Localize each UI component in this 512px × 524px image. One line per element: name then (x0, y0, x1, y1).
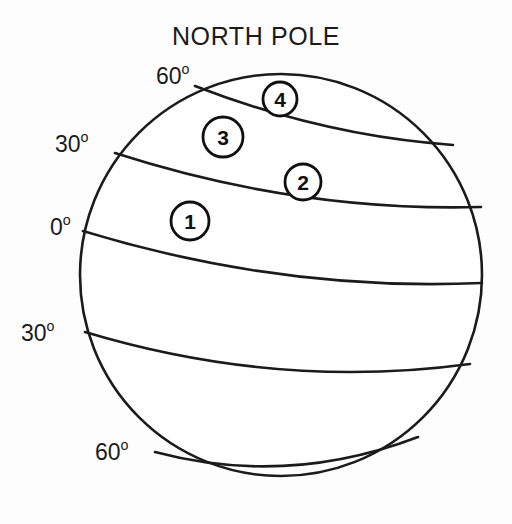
marker-label-4: 4 (274, 88, 286, 111)
degree-icon: o (47, 318, 55, 334)
marker-label-3: 3 (217, 126, 229, 149)
globe-svg: 1 2 3 4 (0, 0, 512, 524)
marker-2[interactable]: 2 (285, 164, 321, 200)
marker-4[interactable]: 4 (263, 82, 297, 116)
degree-icon: o (121, 437, 129, 453)
marker-label-1: 1 (184, 210, 196, 233)
latitude-label-60n-value: 60 (156, 63, 182, 89)
latitude-label-30n: 30o (55, 133, 89, 156)
latitude-label-30s-value: 30 (21, 320, 47, 346)
latitude-label-0-value: 0 (50, 214, 63, 240)
latitude-label-0: 0o (50, 216, 71, 239)
degree-icon: o (63, 212, 71, 228)
globe-latitude-diagram: NORTH POLE 1 2 3 (0, 0, 512, 524)
latitude-label-60n: 60o (156, 65, 190, 88)
latitude-label-30s: 30o (21, 322, 55, 345)
marker-1[interactable]: 1 (171, 202, 209, 240)
marker-3[interactable]: 3 (203, 117, 243, 157)
marker-label-2: 2 (297, 171, 309, 194)
latitude-label-60s: 60o (95, 441, 129, 464)
latitude-label-60s-value: 60 (95, 439, 121, 465)
latitude-label-30n-value: 30 (55, 131, 81, 157)
degree-icon: o (81, 129, 89, 145)
page-title: NORTH POLE (0, 22, 512, 51)
degree-icon: o (182, 61, 190, 77)
